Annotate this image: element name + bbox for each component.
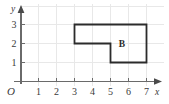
x-tick-labels: 1 2 3 4 5 6 7 xyxy=(36,86,149,97)
x-tick-label-2: 2 xyxy=(54,86,59,97)
origin-label: O xyxy=(7,85,15,97)
coordinate-grid-figure: 1 2 3 4 5 6 7 3 2 1 O x y B xyxy=(0,0,169,104)
x-tick-label-3: 3 xyxy=(72,86,77,97)
y-axis-label: y xyxy=(10,4,16,14)
y-tick-label-2: 2 xyxy=(12,38,17,49)
x-tick-label-5: 5 xyxy=(108,86,113,97)
x-tick-label-6: 6 xyxy=(126,86,131,97)
x-axis xyxy=(14,78,162,85)
x-tick-label-7: 7 xyxy=(144,86,149,97)
grid-lines-vertical xyxy=(39,4,147,86)
x-axis-arrowhead xyxy=(154,78,162,85)
shape-label-b: B xyxy=(119,39,126,49)
y-tick-labels: 3 2 1 xyxy=(12,19,17,68)
x-axis-label: x xyxy=(154,87,160,97)
y-tick-label-1: 1 xyxy=(12,57,17,68)
x-tick-label-4: 4 xyxy=(90,86,95,97)
y-axis xyxy=(18,5,25,84)
y-tick-label-3: 3 xyxy=(12,19,17,30)
figure-canvas: 1 2 3 4 5 6 7 3 2 1 O x y B xyxy=(0,0,169,104)
x-tick-label-1: 1 xyxy=(36,86,41,97)
